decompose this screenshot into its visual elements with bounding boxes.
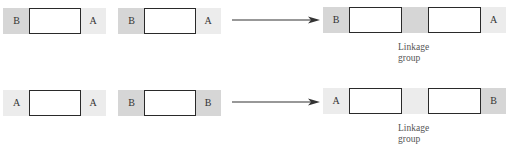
linkage-group-caption: Linkage group: [398, 42, 429, 64]
gene-box: [29, 8, 81, 34]
left-label: B: [323, 7, 349, 33]
right-label: A: [80, 90, 106, 116]
left-label: B: [3, 8, 30, 34]
left-label: A: [323, 88, 349, 114]
gene-box: [349, 88, 402, 114]
right-label: A: [481, 7, 506, 33]
left-label: A: [3, 90, 30, 116]
left-label: B: [118, 8, 145, 34]
left-label: B: [118, 90, 145, 116]
right-label: A: [195, 8, 221, 34]
gene-box: [428, 7, 481, 33]
arrow-right-icon: [230, 14, 322, 26]
right-label: B: [195, 90, 221, 116]
arrow-right-icon: [230, 96, 322, 108]
gene-box: [144, 90, 196, 116]
caption-line-2: group: [398, 53, 429, 64]
linkage-group-caption: Linkage group: [398, 123, 429, 145]
right-label: B: [481, 88, 506, 114]
gene-box: [144, 8, 196, 34]
gene-box: [428, 88, 481, 114]
gene-box: [349, 7, 402, 33]
right-label: A: [80, 8, 106, 34]
caption-line-2: group: [398, 134, 429, 145]
gene-box: [29, 90, 81, 116]
caption-line-1: Linkage: [398, 42, 429, 53]
caption-line-1: Linkage: [398, 123, 429, 134]
